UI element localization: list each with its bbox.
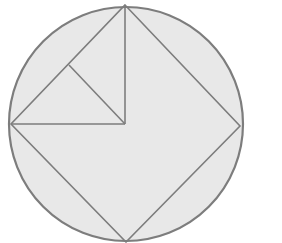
diagram-canvas: [0, 0, 282, 243]
geometry-figure: [0, 0, 282, 243]
